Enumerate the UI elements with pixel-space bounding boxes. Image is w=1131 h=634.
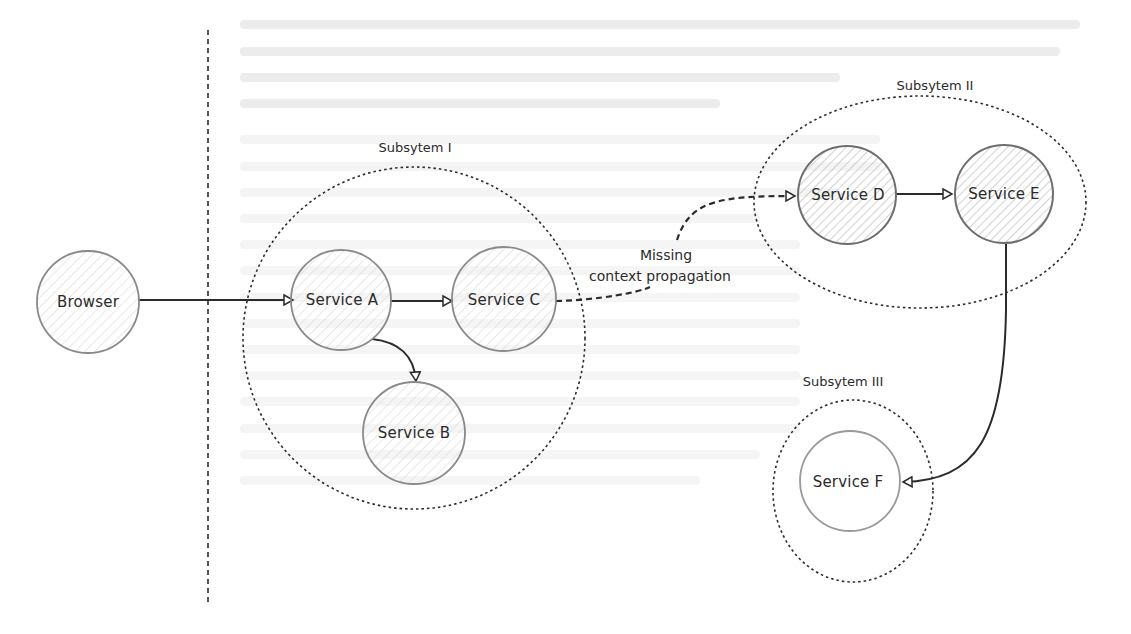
annotation-line-2: context propagation [589,268,731,284]
subsystem-3-label: Subsytem III [803,374,884,389]
subsystem-1-label: Subsytem I [379,140,452,155]
service-f-node-label: Service F [813,473,884,491]
service-d-node-label: Service D [811,186,885,204]
service-a-node-label: Service A [306,291,379,309]
service-e-node-label: Service E [968,185,1039,203]
service-c-node-label: Service C [468,291,540,309]
node-service-d[interactable]: Service D [798,146,896,244]
diagram-canvas: Subsytem I Subsytem II Subsytem III Miss… [0,0,1131,634]
subsystem-2-label: Subsytem II [897,78,974,93]
node-browser[interactable]: Browser [37,251,139,353]
architecture-diagram: Subsytem I Subsytem II Subsytem III Miss… [0,0,1131,634]
node-service-f[interactable]: Service F [800,431,900,531]
node-service-a[interactable]: Service A [291,250,391,350]
browser-node-label: Browser [57,293,120,311]
annotation-line-1: Missing [640,247,692,263]
edge-service-e-to-service-f[interactable] [903,244,1006,482]
node-service-e[interactable]: Service E [955,145,1053,243]
node-service-c[interactable]: Service C [452,247,556,351]
node-service-b[interactable]: Service B [363,382,465,484]
service-b-node-label: Service B [378,424,450,442]
missing-context-annotation: Missing context propagation [589,247,731,284]
